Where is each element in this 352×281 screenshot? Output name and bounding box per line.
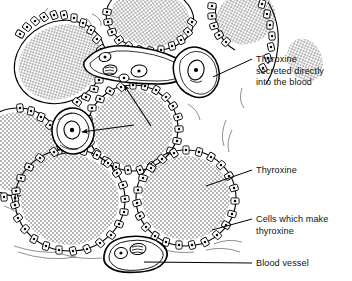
thyroid-diagram: Thyroxinesecreted directlyinto the blood…: [0, 0, 352, 281]
cells-which-make-thyroxine-label-line-1: Cells which make: [256, 214, 328, 224]
thyroxine-secreted-into-blood-label-line-3: into the blood: [256, 77, 312, 87]
colloid-bottom-left: [21, 155, 119, 245]
thyroxine-secreted-into-blood-label-line-1: Thyroxine: [256, 54, 297, 64]
thyroxine-label-line-1: Thyroxine: [256, 165, 297, 175]
cells-which-make-thyroxine-label-line-2: thyroxine: [256, 226, 294, 236]
thyroxine-secreted-into-blood-label-line-2: secreted directly: [256, 66, 324, 76]
blood-vessel-label: Blood vessel: [256, 258, 309, 268]
thyroid-histology-figure: Thyroxinesecreted directlyinto the blood…: [0, 0, 352, 281]
blood-vessel-bottom: [104, 236, 167, 272]
thyroxine-label: Thyroxine: [256, 165, 297, 175]
blood-vessel-label-line-1: Blood vessel: [256, 258, 309, 268]
